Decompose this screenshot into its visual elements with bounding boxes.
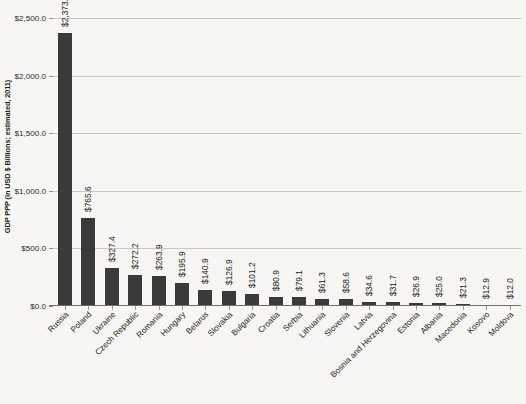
bar-value-label: $61.3 — [317, 272, 327, 293]
bar[interactable] — [81, 218, 95, 306]
bar-slot[interactable]: $195.9 — [175, 18, 189, 306]
y-axis-tick — [49, 76, 53, 77]
x-axis-category-label: Latvia — [353, 310, 375, 332]
bar-value-label: $101.2 — [247, 263, 257, 289]
bar-slot[interactable]: $140.9 — [198, 18, 212, 306]
bar-slot[interactable]: $79.1 — [292, 18, 306, 306]
y-axis-tick — [49, 133, 53, 134]
bar-slot[interactable]: $12.9 — [479, 18, 493, 306]
bar-slot[interactable]: $12.0 — [503, 18, 517, 306]
bar-value-label: $80.9 — [270, 270, 280, 291]
y-axis-tick-label: $1,500.0 — [12, 129, 50, 138]
y-axis-tick-label: $2,500.0 — [12, 14, 50, 23]
y-axis-tick-labels: $0.0$500.0$1,000.0$1,500.0$2,000.0$2,500… — [12, 0, 50, 404]
gridline — [53, 248, 521, 249]
bar-value-label: $26.9 — [411, 276, 421, 297]
bar-value-label: $31.7 — [387, 275, 397, 296]
bar[interactable] — [222, 291, 236, 306]
bar-slot[interactable]: $26.9 — [409, 18, 423, 306]
bar-slot[interactable]: $25.0 — [432, 18, 446, 306]
bar[interactable] — [152, 276, 166, 306]
bar-slot[interactable]: $101.2 — [245, 18, 259, 306]
bar-value-label: $34.6 — [364, 275, 374, 296]
x-axis-category-label: Poland — [69, 310, 93, 334]
bar[interactable] — [128, 275, 142, 306]
bar-value-label: $12.0 — [504, 278, 514, 299]
y-axis-tick-label: $2,000.0 — [12, 71, 50, 80]
bar-slot[interactable]: $58.6 — [339, 18, 353, 306]
bar-value-label: $195.9 — [177, 252, 187, 278]
bar-slot[interactable]: $765.6 — [81, 18, 95, 306]
y-axis-tick-label: $0.0 — [12, 302, 50, 311]
bar[interactable] — [58, 33, 72, 306]
bar-value-label: $25.0 — [434, 276, 444, 297]
gridline — [53, 133, 521, 134]
bar-value-label: $140.9 — [200, 258, 210, 284]
bar-value-label: $21.3 — [457, 277, 467, 298]
bar-value-label: $79.1 — [294, 270, 304, 291]
bar-slot[interactable]: $263.9 — [152, 18, 166, 306]
bar-value-label: $12.9 — [481, 278, 491, 299]
x-axis-category-label: Estonia — [396, 310, 422, 336]
bar[interactable] — [198, 290, 212, 306]
bar-value-label: $327.4 — [106, 237, 116, 263]
gdp-ppp-bar-chart: GDP PPP (in USD $ Billions; estimated, 2… — [0, 0, 526, 404]
bar-slot[interactable]: $21.3 — [456, 18, 470, 306]
x-axis-category-label: Moldova — [487, 310, 515, 338]
y-axis-tick-label: $1,000.0 — [12, 186, 50, 195]
y-axis-tick — [49, 191, 53, 192]
bar-value-label: $263.9 — [153, 244, 163, 270]
y-axis-tick — [49, 18, 53, 19]
gridline — [53, 18, 521, 19]
bar[interactable] — [175, 283, 189, 306]
x-axis-category-label: Bulgaria — [230, 310, 258, 338]
bar-value-label: $2,373.0 — [60, 0, 70, 27]
bar[interactable] — [105, 268, 119, 306]
plot-area: $2,373.0$765.6$327.4$272.2$263.9$195.9$1… — [53, 18, 521, 306]
bar-slot[interactable]: $34.6 — [362, 18, 376, 306]
y-axis-tick — [49, 248, 53, 249]
x-axis-category-label: Slovakia — [206, 310, 234, 338]
gridline — [53, 76, 521, 77]
bar-value-label: $58.6 — [340, 272, 350, 293]
bar-slot[interactable]: $2,373.0 — [58, 18, 72, 306]
bar-slot[interactable]: $31.7 — [386, 18, 400, 306]
x-axis-category-label: Slovenia — [323, 310, 352, 339]
bar-slot[interactable]: $272.2 — [128, 18, 142, 306]
bar-slot[interactable]: $61.3 — [315, 18, 329, 306]
x-axis-category-label: Croatia — [256, 310, 281, 335]
gridline — [53, 191, 521, 192]
bar-slot[interactable]: $327.4 — [105, 18, 119, 306]
bar-value-label: $126.9 — [223, 260, 233, 286]
bar-value-label: $765.6 — [83, 186, 93, 212]
x-axis-category-labels: RussiaPolandUkraineCzech RepublicRomania… — [53, 306, 521, 404]
bar-slot[interactable]: $80.9 — [269, 18, 283, 306]
x-axis-category-label: Czech Republic — [94, 310, 141, 357]
bar-value-label: $272.2 — [130, 243, 140, 269]
y-axis-tick-label: $500.0 — [12, 244, 50, 253]
bar-slot[interactable]: $126.9 — [222, 18, 236, 306]
